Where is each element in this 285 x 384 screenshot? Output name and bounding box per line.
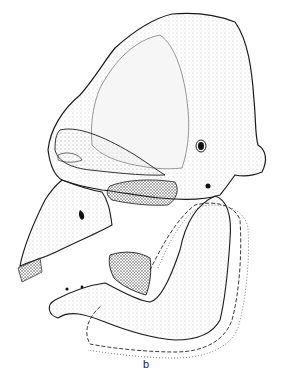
skull-illustration: [0, 0, 285, 384]
cranium: [48, 13, 265, 205]
rostrum: [18, 180, 112, 282]
panel-label: b: [143, 358, 149, 370]
